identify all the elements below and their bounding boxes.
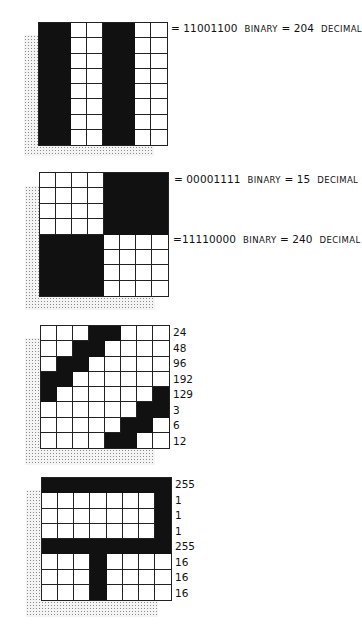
row-decimal-value: 255 [175, 539, 195, 555]
pixel-off [73, 387, 89, 402]
pixel-on [120, 204, 136, 219]
pixel-off [58, 509, 74, 524]
pixel-on [136, 173, 152, 188]
pixel-off [41, 341, 57, 356]
pixel-off [42, 493, 58, 508]
pixel-on [139, 539, 155, 554]
pixel-off [73, 418, 89, 433]
pixel-on [137, 418, 153, 433]
pixel-on [89, 326, 105, 341]
pixel-on [55, 23, 71, 38]
pixel-off [105, 341, 121, 356]
pixel-on [152, 219, 168, 234]
pixel-off [139, 493, 155, 508]
pixel-off [152, 281, 168, 296]
pixel-off [42, 585, 58, 600]
pixel-on [103, 54, 119, 69]
pixel-off [120, 265, 136, 280]
equals-sign: = [281, 173, 297, 185]
pixel-off [104, 235, 120, 250]
pixel-on [119, 84, 135, 99]
pixel-on [55, 69, 71, 84]
pixel-on [90, 539, 106, 554]
pixel-off [71, 38, 87, 53]
pixel-off [87, 99, 103, 114]
pixel-off [151, 23, 167, 38]
pixel-off [73, 326, 89, 341]
pixel-off [139, 509, 155, 524]
pixel-off [71, 99, 87, 114]
pixel-off [40, 188, 56, 203]
pixel-on [155, 539, 171, 554]
pixel-on [152, 188, 168, 203]
decimal-word: DECIMAL [321, 24, 362, 34]
pixel-off [72, 219, 88, 234]
pixel-off [58, 570, 74, 585]
pixel-off [137, 433, 153, 448]
pixel-on [123, 478, 139, 493]
pixel-off [71, 69, 87, 84]
pixel-on [90, 570, 106, 585]
pixel-on [155, 478, 171, 493]
pixel-off [89, 433, 105, 448]
row-decimal-value: 96 [173, 356, 186, 372]
binary-decimal-annotation: = 11001100 BINARY = 204 DECIMAL [171, 22, 362, 34]
pixel-off [137, 341, 153, 356]
pixel-off [105, 387, 121, 402]
pixel-on [119, 23, 135, 38]
pixel-on [137, 402, 153, 417]
pixel-off [121, 357, 137, 372]
pixel-off [152, 235, 168, 250]
pixel-off [120, 281, 136, 296]
pixel-on [57, 372, 73, 387]
row-decimal-value: 16 [175, 570, 188, 586]
pixel-on [55, 38, 71, 53]
pixel-off [120, 235, 136, 250]
pixel-off [87, 130, 103, 145]
row-decimal-value: 6 [173, 418, 180, 434]
pixel-on [41, 372, 57, 387]
pixel-on [104, 204, 120, 219]
pixel-off [123, 493, 139, 508]
pixel-off [121, 372, 137, 387]
pixel-off [105, 402, 121, 417]
pixel-on [105, 326, 121, 341]
pixel-off [123, 570, 139, 585]
pixel-on [152, 173, 168, 188]
row-decimal-value: 3 [173, 403, 180, 419]
pixel-on [58, 539, 74, 554]
pixel-on [72, 281, 88, 296]
pixel-off [139, 554, 155, 569]
pixel-off [42, 554, 58, 569]
pixel-off [41, 402, 57, 417]
row-decimal-value: 1 [175, 493, 182, 509]
pixel-on [90, 585, 106, 600]
pixel-off [136, 281, 152, 296]
pixel-off [151, 38, 167, 53]
pixel-on [58, 478, 74, 493]
pixel-on [105, 433, 121, 448]
pixel-off [74, 585, 90, 600]
pixel-on [119, 130, 135, 145]
pixel-on [73, 357, 89, 372]
pixel-off [107, 493, 123, 508]
pixel-off [155, 570, 171, 585]
pixel-on [119, 38, 135, 53]
pixel-off [121, 402, 137, 417]
pixel-on [103, 69, 119, 84]
pixel-on [40, 281, 56, 296]
pixel-on [136, 219, 152, 234]
pixel-off [135, 84, 151, 99]
pixel-on [155, 509, 171, 524]
pixel-on [104, 219, 120, 234]
pixel-on [90, 478, 106, 493]
pixel-off [88, 188, 104, 203]
pixel-off [152, 250, 168, 265]
pixel-on [121, 418, 137, 433]
pixel-on [40, 235, 56, 250]
pixel-on [120, 219, 136, 234]
pixel-off [73, 372, 89, 387]
pixel-off [72, 188, 88, 203]
pixel-off [40, 204, 56, 219]
row-decimal-value: 1 [175, 524, 182, 540]
